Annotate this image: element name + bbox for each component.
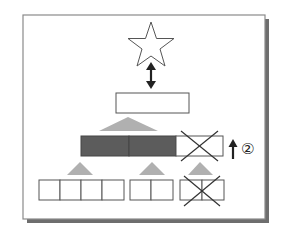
bottom-group-1 [39, 180, 124, 200]
middle-cell-filled [129, 136, 176, 156]
tree-diagram: ② [0, 0, 284, 234]
middle-row [81, 131, 223, 161]
middle-cell-filled [81, 136, 129, 156]
root-node [116, 93, 189, 113]
step-label: ② [241, 140, 254, 158]
bottom-group-2 [130, 180, 173, 200]
